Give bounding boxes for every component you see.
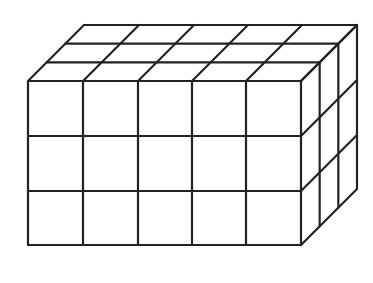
side-depth-line (301, 135, 357, 191)
side-depth-line (301, 189, 357, 245)
top-depth-line (83, 25, 139, 81)
top-depth-line (246, 25, 302, 81)
side-depth-line (301, 25, 357, 81)
side-depth-line (301, 80, 357, 136)
cube-prism-diagram (0, 0, 373, 283)
top-depth-line (192, 25, 248, 81)
top-depth-line (28, 25, 84, 81)
top-depth-line (138, 25, 194, 81)
